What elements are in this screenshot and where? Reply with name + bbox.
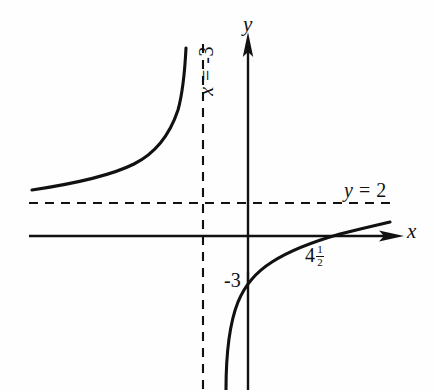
x-intercept-fraction: 12: [316, 244, 324, 268]
x-axis-label: x: [407, 221, 416, 242]
horizontal-asymptote-label-var: y: [344, 179, 353, 201]
horizontal-asymptote-label-value: = 2: [353, 179, 386, 201]
vertical-asymptote-label: x = -3: [196, 46, 216, 96]
horizontal-asymptote-label: y = 2: [344, 180, 387, 200]
x-intercept-denominator: 2: [316, 257, 324, 269]
x-intercept-label: 412: [305, 243, 324, 267]
x-intercept-numerator: 1: [316, 244, 324, 256]
y-intercept-label: -3: [224, 270, 241, 290]
x-intercept-whole: 4: [305, 245, 315, 265]
vertical-asymptote-label-var: x: [195, 86, 217, 95]
y-axis-label: y: [243, 14, 252, 35]
rational-function-figure: y x x = -3 y = 2 -3 412: [0, 0, 436, 390]
curve-left-branch: [32, 48, 186, 190]
vertical-asymptote-label-value: = -3: [195, 46, 217, 86]
